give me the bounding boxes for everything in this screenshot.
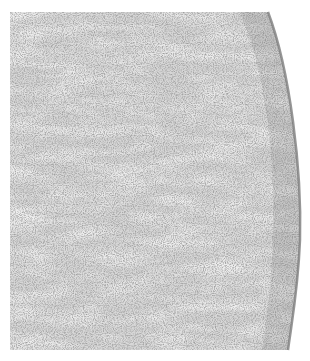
tissue-section [0,0,310,361]
micrograph-image [0,0,310,361]
